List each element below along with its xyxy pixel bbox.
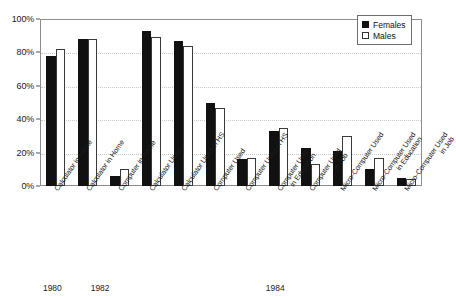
y-axis-tick-label: 80% [17, 48, 34, 57]
x-axis-year-label: 1984 [266, 283, 285, 293]
chart-legend: Females Males [357, 15, 412, 45]
legend-item-females: Females [362, 19, 406, 30]
bar-males [88, 39, 98, 186]
bar-females [174, 41, 184, 186]
y-axis-tick-label: 100% [12, 15, 34, 24]
legend-swatch-empty-square-icon [362, 32, 369, 39]
bar-males [151, 37, 161, 186]
y-axis-tick-label: 0% [21, 182, 34, 191]
y-axis-tick-label: 40% [17, 115, 34, 124]
x-axis-year-label: 1982 [91, 283, 110, 293]
x-axis-year-label: 1980 [43, 283, 62, 293]
bar-males [56, 49, 66, 186]
x-axis-category-labels: Calculator in HomeCalculator in HomeComp… [40, 188, 426, 283]
legend-label-males: Males [373, 31, 396, 41]
y-axis-tick-label: 20% [17, 148, 34, 157]
bar-females [46, 56, 56, 186]
bar-males [183, 46, 193, 186]
legend-swatch-filled-square-icon [362, 21, 369, 28]
y-axis: 0%20%40%60%80%100% [0, 14, 40, 192]
y-axis-tick-label: 60% [17, 81, 34, 90]
legend-item-males: Males [362, 30, 406, 41]
legend-label-females: Females [373, 20, 406, 30]
